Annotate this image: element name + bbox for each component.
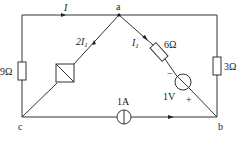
current-I1-label: I1	[131, 37, 139, 50]
circuit-diagram: a b c I 9Ω 3Ω 6Ω 2I1 I1 1A 1V − +	[0, 0, 237, 143]
resistor-3ohm-label: 3Ω	[224, 61, 236, 72]
resistor-3ohm	[213, 57, 221, 75]
resistor-6ohm-label: 6Ω	[164, 39, 176, 50]
diag-a-b-1	[119, 15, 153, 45]
voltage-minus-label: −	[167, 68, 173, 79]
arrow-1A-icon	[168, 115, 174, 119]
dep-source-label: 2I1	[76, 36, 88, 49]
current-source-icon	[117, 110, 131, 124]
dependent-source-icon	[56, 64, 74, 82]
voltage-plus-label: +	[186, 94, 192, 105]
resistor-9ohm-label: 9Ω	[0, 66, 12, 77]
current-source-label: 1A	[117, 96, 130, 107]
node-b-label: b	[218, 121, 223, 132]
resistor-9ohm	[18, 62, 26, 80]
node-c-label: c	[18, 121, 23, 132]
arrow-I-icon	[61, 13, 66, 17]
node-a-dot	[117, 13, 120, 16]
node-a-label: a	[116, 1, 121, 12]
svg-text:2I1: 2I1	[76, 36, 88, 49]
diag-a-c-lower	[22, 83, 57, 117]
top-wire	[22, 15, 217, 62]
voltage-source-label: 1V	[163, 91, 176, 102]
current-I-label: I	[63, 2, 68, 13]
voltage-source-icon	[175, 74, 191, 90]
svg-text:I1: I1	[131, 37, 139, 50]
diag-a-b-3	[190, 89, 217, 117]
